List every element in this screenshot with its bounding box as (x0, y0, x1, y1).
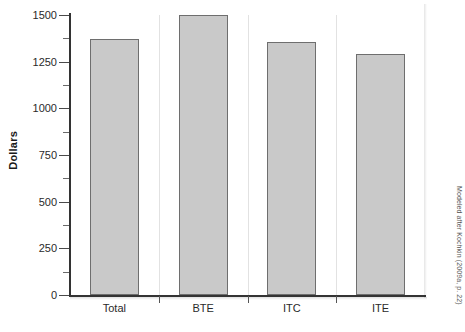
x-tick-major (336, 296, 337, 303)
bar (179, 15, 228, 295)
category-separator (248, 15, 249, 295)
bar (90, 39, 139, 295)
source-note-text: Modeled after Kochkin (2009a, p. 22) (456, 186, 463, 305)
x-tick-major (159, 296, 160, 303)
bar (356, 54, 405, 295)
x-tick-label: BTE (192, 302, 213, 314)
x-tick-label: ITE (372, 302, 389, 314)
source-note: Modeled after Kochkin (2009a, p. 22) (456, 186, 463, 326)
bar (267, 42, 316, 295)
x-tick-label: ITC (283, 302, 301, 314)
chart-figure: Dollars 0250500750100012501500 TotalBTEI… (0, 0, 465, 332)
category-separator (336, 15, 337, 295)
x-axis-category-labels: TotalBTEITCITE (0, 302, 465, 322)
bars-layer (0, 0, 465, 332)
x-tick-label: Total (103, 302, 126, 314)
category-separator (159, 15, 160, 295)
x-tick-major (248, 296, 249, 303)
